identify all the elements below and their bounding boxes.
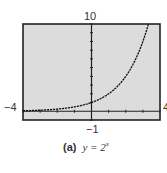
figure-caption: (a)y = 2x: [63, 140, 109, 153]
caption-equation-base: y = 2: [82, 141, 105, 153]
caption-equation: y = 2x: [82, 141, 108, 153]
caption-tag: (a): [63, 141, 76, 153]
caption-exponent: x: [106, 140, 109, 148]
